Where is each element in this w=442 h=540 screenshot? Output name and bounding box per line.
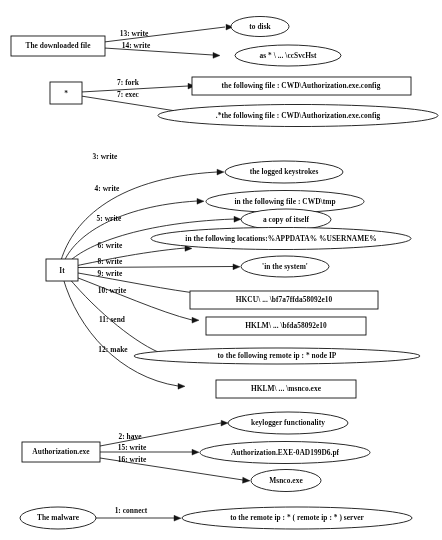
edge-label-3-write: 3: write xyxy=(93,152,118,161)
node-logged-keystrokes[interactable]: the logged keystrokes xyxy=(225,161,343,183)
edge-label-2-have: 2: have xyxy=(118,432,142,441)
edge-label-16-write: 16: write xyxy=(118,455,147,464)
edge-label-15-write: 15: write xyxy=(118,443,147,452)
node-label-authorization-pf: Authorization.EXE-0AD199D6.pf xyxy=(231,448,340,457)
node-label-hklm-key: HKLM\ ... \bfda58092e10 xyxy=(245,321,327,330)
node-label-downloaded-file: The downloaded file xyxy=(25,41,91,50)
node-the-malware[interactable]: The malware xyxy=(20,507,96,529)
node-label-following-locations: in the following locations:%APPDATA% %US… xyxy=(185,234,376,243)
edge-label-13-write: 13: write xyxy=(120,29,149,38)
node-label-msnco-exe: Msnco.exe xyxy=(269,476,303,485)
edge-label-9-write: 9: write xyxy=(98,269,123,278)
node-copy-of-itself[interactable]: a copy of itself xyxy=(241,209,331,230)
node-hklm-msnco[interactable]: HKLM\ ... \msnco.exe xyxy=(216,380,356,398)
node-in-the-system[interactable]: 'in the system' xyxy=(241,256,329,277)
node-hkcu-key[interactable]: HKCU\ ... \bf7a7ffda58092e10 xyxy=(190,291,378,309)
node-label-star: * xyxy=(64,89,68,98)
node-label-as-ccsvchst: as * \ ... \ccSvcHst xyxy=(259,51,317,60)
node-star-following-file-config[interactable]: .*the following file : CWD\Authorization… xyxy=(158,105,438,127)
edge-label-8-write: 8: write xyxy=(98,257,123,266)
node-authorization-pf[interactable]: Authorization.EXE-0AD199D6.pf xyxy=(200,442,370,464)
node-label-star-following-file-config: .*the following file : CWD\Authorization… xyxy=(216,111,381,120)
edge-label-5-write: 5: write xyxy=(97,214,122,223)
edge-label-10-write: 10: write xyxy=(98,286,127,295)
edge-13-write: 13: write xyxy=(104,24,233,42)
edge-14-write: 14: write xyxy=(104,41,220,58)
edge-label-14-write: 14: write xyxy=(122,41,151,50)
edge-4-write: 4: write xyxy=(63,184,204,264)
node-it[interactable]: It xyxy=(46,259,78,281)
node-label-remote-ip-node: to the following remote ip : * node IP xyxy=(218,351,337,360)
node-remote-ip-server[interactable]: to the remote ip : * ( remote ip : * ) s… xyxy=(182,507,412,529)
node-label-copy-of-itself: a copy of itself xyxy=(263,215,310,224)
node-label-following-file-cwd-tmp: in the following file : CWD\tmp xyxy=(234,197,335,206)
node-star[interactable]: * xyxy=(50,82,82,104)
node-label-hklm-msnco: HKLM\ ... \msnco.exe xyxy=(251,384,322,393)
node-authorization-exe[interactable]: Authorization.exe xyxy=(22,442,100,462)
node-label-the-malware: The malware xyxy=(37,513,80,522)
node-label-authorization-exe: Authorization.exe xyxy=(32,447,90,456)
node-label-remote-ip-server: to the remote ip : * ( remote ip : * ) s… xyxy=(230,513,364,522)
edge-label-11-send: 11: send xyxy=(99,315,126,324)
node-msnco-exe[interactable]: Msnco.exe xyxy=(251,470,321,492)
graph-group-authorization-exe: 2: have 15: write 16: write Authorizatio… xyxy=(22,412,370,492)
node-as-ccsvchst[interactable]: as * \ ... \ccSvcHst xyxy=(235,45,341,66)
node-hklm-key[interactable]: HKLM\ ... \bfda58092e10 xyxy=(206,317,366,335)
edge-label-6-write: 6: write xyxy=(98,241,123,250)
behavior-graph-diagram: 13: write 14: write The downloaded file … xyxy=(0,0,442,540)
node-following-file-config[interactable]: the following file : CWD\Authorization.e… xyxy=(192,77,411,95)
edge-label-7-exec: 7: exec xyxy=(117,90,140,99)
node-label-it: It xyxy=(59,266,65,275)
node-remote-ip-node[interactable]: to the following remote ip : * node IP xyxy=(134,348,420,364)
edge-label-12-make: 12: make xyxy=(98,345,128,354)
edge-15-write: 15: write xyxy=(100,443,199,455)
node-label-to-disk: to disk xyxy=(249,22,271,31)
edge-label-1-connect: 1: connect xyxy=(115,506,148,515)
graph-group-the-malware: 1: connect The malware to the remote ip … xyxy=(20,506,412,529)
node-to-disk[interactable]: to disk xyxy=(231,17,289,37)
edge-2-have: 2: have xyxy=(100,420,228,446)
node-label-in-the-system: 'in the system' xyxy=(262,262,308,271)
edge-label-7-fork: 7: fork xyxy=(117,78,140,87)
node-downloaded-file[interactable]: The downloaded file xyxy=(11,36,105,56)
node-keylogger-functionality[interactable]: keylogger functionality xyxy=(228,412,348,434)
node-label-keylogger-functionality: keylogger functionality xyxy=(251,418,325,427)
node-label-hkcu-key: HKCU\ ... \bf7a7ffda58092e10 xyxy=(236,295,333,304)
edge-label-4-write: 4: write xyxy=(95,184,120,193)
graph-group-star: 7: fork 7: exec * the following file : C… xyxy=(50,77,438,127)
graph-group-downloaded-file: 13: write 14: write The downloaded file … xyxy=(11,17,341,67)
node-label-following-file-config: the following file : CWD\Authorization.e… xyxy=(222,81,381,90)
node-label-logged-keystrokes: the logged keystrokes xyxy=(250,167,319,176)
edge-1-connect: 1: connect xyxy=(96,506,181,521)
graph-group-it: 3: write 4: write 5: write 6: write 8: w… xyxy=(46,152,420,398)
node-following-locations[interactable]: in the following locations:%APPDATA% %US… xyxy=(151,228,411,250)
